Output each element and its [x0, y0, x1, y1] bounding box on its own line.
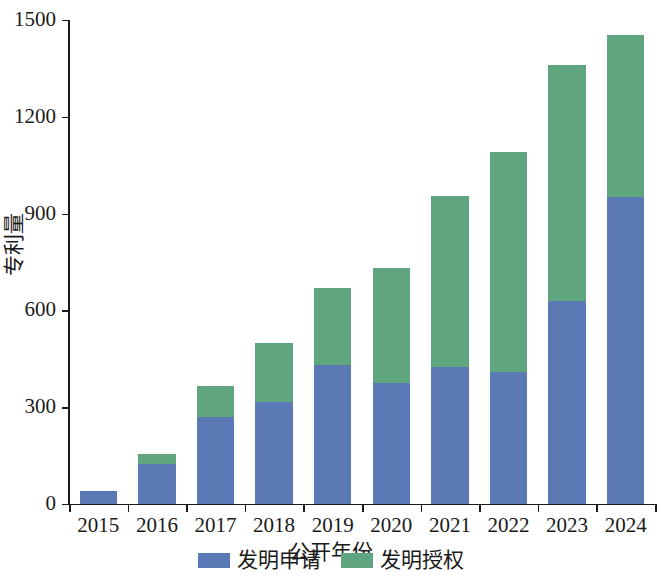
- bar-segment-application[interactable]: [373, 383, 411, 504]
- x-tick-mark: [128, 504, 130, 512]
- y-tick-label: 1200: [14, 104, 56, 129]
- bar-segment-application[interactable]: [255, 402, 293, 504]
- legend-swatch-icon: [198, 553, 230, 568]
- bar-group[interactable]: [431, 20, 469, 504]
- bar-segment-application[interactable]: [490, 372, 528, 504]
- x-tick-mark: [69, 504, 71, 512]
- bar-segment-grant[interactable]: [373, 268, 411, 383]
- legend-label: 发明授权: [380, 548, 464, 572]
- chart-legend: 发明申请发明授权: [0, 548, 662, 572]
- x-tick-mark: [421, 504, 423, 512]
- x-tick-label: 2015: [77, 513, 119, 538]
- legend-swatch-icon: [341, 553, 373, 568]
- x-tick-label: 2023: [546, 513, 588, 538]
- bar-group[interactable]: [255, 20, 293, 504]
- y-tick-mark: [62, 117, 69, 118]
- x-tick-mark: [538, 504, 540, 512]
- y-tick-label: 300: [25, 394, 57, 419]
- legend-label: 发明申请: [237, 548, 321, 572]
- bar-segment-grant[interactable]: [490, 152, 528, 371]
- bar-group[interactable]: [548, 20, 586, 504]
- bar-segment-application[interactable]: [314, 365, 352, 504]
- bar-segment-application[interactable]: [548, 301, 586, 504]
- x-tick-mark: [655, 504, 657, 512]
- x-tick-label: 2021: [429, 513, 471, 538]
- x-tick-mark: [245, 504, 247, 512]
- bar-segment-application[interactable]: [197, 417, 235, 504]
- bar-segment-grant[interactable]: [314, 288, 352, 365]
- x-tick-label: 2018: [253, 513, 295, 538]
- x-tick-mark: [596, 504, 598, 512]
- bar-segment-grant[interactable]: [197, 386, 235, 417]
- bar-segment-application[interactable]: [80, 491, 118, 504]
- bar-group[interactable]: [138, 20, 176, 504]
- x-tick-mark: [186, 504, 188, 512]
- x-tick-label: 2017: [195, 513, 237, 538]
- y-tick-label: 600: [25, 297, 57, 322]
- bar-group[interactable]: [373, 20, 411, 504]
- bar-segment-application[interactable]: [431, 367, 469, 504]
- y-tick-mark: [62, 504, 69, 505]
- x-tick-label: 2022: [488, 513, 530, 538]
- bar-group[interactable]: [607, 20, 645, 504]
- legend-item-grant[interactable]: 发明授权: [341, 548, 464, 572]
- x-tick-mark: [303, 504, 305, 512]
- y-tick-mark: [62, 214, 69, 215]
- y-tick-label: 900: [25, 201, 57, 226]
- bar-segment-grant[interactable]: [607, 35, 645, 198]
- bar-group[interactable]: [197, 20, 235, 504]
- x-tick-label: 2019: [312, 513, 354, 538]
- y-tick-label: 0: [46, 491, 57, 516]
- x-tick-mark: [479, 504, 481, 512]
- bar-segment-grant[interactable]: [431, 196, 469, 367]
- bar-segment-grant[interactable]: [548, 65, 586, 301]
- bar-segment-application[interactable]: [138, 464, 176, 504]
- x-tick-label: 2016: [136, 513, 178, 538]
- y-tick-mark: [62, 310, 69, 311]
- x-tick-label: 2020: [370, 513, 412, 538]
- bar-group[interactable]: [314, 20, 352, 504]
- plot-area: [69, 20, 655, 504]
- y-tick-mark: [62, 20, 69, 21]
- bar-segment-grant[interactable]: [255, 343, 293, 403]
- bar-group[interactable]: [80, 20, 118, 504]
- y-tick-label: 1500: [14, 7, 56, 32]
- bar-segment-grant[interactable]: [138, 454, 176, 464]
- x-tick-mark: [362, 504, 364, 512]
- bar-group[interactable]: [490, 20, 528, 504]
- stacked-bar-chart: 030060090012001500 201520162017201820192…: [0, 0, 662, 576]
- y-tick-mark: [62, 407, 69, 408]
- legend-item-application[interactable]: 发明申请: [198, 548, 321, 572]
- bar-segment-application[interactable]: [607, 197, 645, 504]
- y-axis-title: 专利量: [2, 184, 26, 304]
- x-tick-label: 2024: [605, 513, 647, 538]
